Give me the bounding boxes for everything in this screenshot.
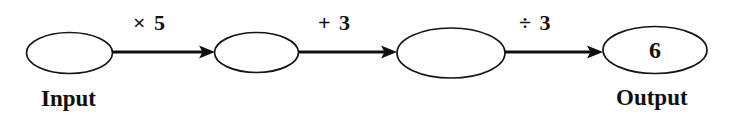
operation-label-divide: ÷ 3 <box>519 12 552 34</box>
operation-label-add: + 3 <box>318 12 352 34</box>
node-input-ellipse[interactable] <box>27 33 113 74</box>
input-caption: Input <box>41 87 96 110</box>
function-machine-diagram: × 5 + 3 ÷ 3 6 Input Output <box>0 0 731 117</box>
node-step-2-ellipse[interactable] <box>397 28 505 78</box>
node-output-value: 6 <box>603 38 707 62</box>
operation-label-multiply: × 5 <box>133 12 167 34</box>
node-step-1-ellipse[interactable] <box>215 33 299 73</box>
output-caption: Output <box>616 86 688 109</box>
